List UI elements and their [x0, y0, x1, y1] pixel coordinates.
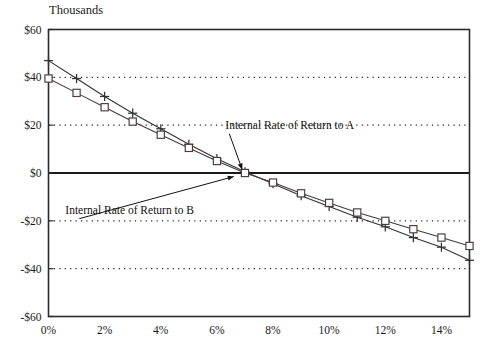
y-tick-label: $40 [24, 71, 42, 83]
data-point-square [185, 144, 192, 151]
data-point-square [269, 179, 276, 186]
y-tick-label: -$40 [20, 263, 41, 275]
x-tick-label: 14% [431, 324, 453, 336]
annotation-label: Internal Rate of Return to B [65, 204, 194, 216]
data-point-square [157, 131, 164, 138]
data-point-square [45, 75, 52, 82]
data-point-square [241, 169, 248, 176]
data-point-square [73, 89, 80, 96]
data-point-square [326, 199, 333, 206]
data-point-square [466, 242, 473, 249]
data-point-square [101, 104, 108, 111]
y-tick-label: $0 [30, 167, 42, 179]
y-tick-label: -$60 [20, 311, 41, 323]
chart-background [0, 0, 493, 356]
y-tick-label: $60 [24, 24, 42, 36]
data-point-square [129, 118, 136, 125]
y-tick-label: -$20 [20, 215, 41, 227]
data-point-square [213, 157, 220, 164]
irr-crossover-line-chart: Thousands $60$40$20$0-$20-$40-$60 0%2%4%… [0, 0, 493, 356]
x-tick-label: 2% [97, 324, 113, 336]
x-tick-label: 6% [209, 324, 225, 336]
x-tick-label: 12% [375, 324, 397, 336]
chart-container: Thousands $60$40$20$0-$20-$40-$60 0%2%4%… [0, 0, 493, 356]
data-point-square [382, 217, 389, 224]
annotation-label: Internal Rate of Return to A [225, 119, 354, 131]
data-point-square [354, 209, 361, 216]
chart-title: Thousands [49, 3, 103, 17]
x-tick-label: 8% [265, 324, 281, 336]
x-tick-label: 10% [319, 324, 341, 336]
x-tick-label: 0% [41, 324, 57, 336]
data-point-square [298, 190, 305, 197]
y-tick-label: $20 [24, 119, 42, 131]
x-tick-label: 4% [153, 324, 169, 336]
data-point-square [438, 234, 445, 241]
data-point-square [410, 226, 417, 233]
